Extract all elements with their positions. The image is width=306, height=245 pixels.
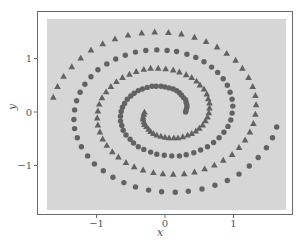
circle-marker bbox=[148, 149, 153, 154]
circle-marker bbox=[274, 124, 279, 129]
circle-marker bbox=[209, 64, 214, 69]
circle-marker bbox=[186, 189, 191, 194]
circle-marker bbox=[110, 175, 115, 180]
circle-marker bbox=[193, 55, 198, 60]
circle-marker bbox=[154, 47, 159, 52]
circle-marker bbox=[92, 161, 97, 166]
circle-marker bbox=[104, 61, 109, 66]
circle-marker bbox=[184, 52, 189, 57]
circle-marker bbox=[215, 70, 220, 75]
plot-background bbox=[47, 19, 286, 210]
circle-marker bbox=[82, 82, 87, 87]
circle-marker bbox=[133, 49, 138, 54]
circle-marker bbox=[228, 117, 233, 122]
circle-marker bbox=[159, 189, 164, 194]
circle-marker bbox=[131, 140, 136, 145]
circle-marker bbox=[75, 135, 80, 140]
circle-marker bbox=[225, 124, 230, 129]
circle-marker bbox=[119, 109, 124, 114]
circle-marker bbox=[146, 187, 151, 192]
circle-marker bbox=[74, 98, 79, 103]
y-tick-label: −1 bbox=[17, 160, 32, 171]
circle-marker bbox=[256, 155, 261, 160]
circle-marker bbox=[72, 126, 77, 131]
circle-marker bbox=[145, 85, 150, 90]
circle-marker bbox=[225, 178, 230, 183]
circle-marker bbox=[225, 83, 230, 88]
circle-marker bbox=[198, 147, 203, 152]
circle-marker bbox=[211, 140, 216, 145]
circle-marker bbox=[79, 144, 84, 149]
circle-marker bbox=[143, 48, 148, 53]
circle-marker bbox=[227, 90, 232, 95]
circle-marker bbox=[205, 144, 210, 149]
circle-marker bbox=[236, 171, 241, 176]
circle-marker bbox=[162, 153, 167, 158]
circle-marker bbox=[177, 153, 182, 158]
x-axis-label: x bbox=[157, 226, 164, 239]
circle-marker bbox=[221, 76, 226, 81]
y-axis-ticks: −101 bbox=[17, 53, 37, 171]
circle-marker bbox=[229, 110, 234, 115]
spiral-scatter-chart: −101 −101 x y bbox=[0, 0, 306, 245]
circle-marker bbox=[113, 56, 118, 61]
circle-marker bbox=[174, 49, 179, 54]
circle-marker bbox=[229, 97, 234, 102]
circle-marker bbox=[154, 152, 159, 157]
circle-marker bbox=[221, 130, 226, 135]
circle-marker bbox=[184, 152, 189, 157]
circle-marker bbox=[247, 163, 252, 168]
x-tick-label: 1 bbox=[230, 218, 236, 229]
circle-marker bbox=[212, 183, 217, 188]
x-tick-label: −1 bbox=[89, 218, 104, 229]
circle-marker bbox=[173, 190, 178, 195]
circle-marker bbox=[119, 123, 124, 128]
circle-marker bbox=[101, 168, 106, 173]
circle-marker bbox=[123, 53, 128, 58]
circle-marker bbox=[77, 90, 82, 95]
y-axis-label: y bbox=[6, 103, 19, 111]
y-tick-label: 0 bbox=[26, 107, 32, 118]
circle-marker bbox=[136, 144, 141, 149]
circle-marker bbox=[123, 132, 128, 137]
y-tick-label: 1 bbox=[26, 53, 32, 64]
circle-marker bbox=[121, 180, 126, 185]
circle-marker bbox=[133, 184, 138, 189]
circle-marker bbox=[72, 107, 77, 112]
circle-marker bbox=[169, 153, 174, 158]
circle-marker bbox=[264, 145, 269, 150]
circle-marker bbox=[149, 84, 154, 89]
circle-marker bbox=[191, 150, 196, 155]
circle-marker bbox=[216, 135, 221, 140]
circle-marker bbox=[88, 74, 93, 79]
circle-marker bbox=[199, 186, 204, 191]
circle-marker bbox=[230, 103, 235, 108]
circle-marker bbox=[95, 67, 100, 72]
circle-marker bbox=[118, 114, 123, 119]
circle-marker bbox=[164, 48, 169, 53]
circle-marker bbox=[270, 135, 275, 140]
circle-marker bbox=[158, 84, 163, 89]
circle-marker bbox=[201, 59, 206, 64]
circle-marker bbox=[121, 128, 126, 133]
circle-marker bbox=[85, 153, 90, 158]
circle-marker bbox=[141, 147, 146, 152]
circle-marker bbox=[71, 117, 76, 122]
